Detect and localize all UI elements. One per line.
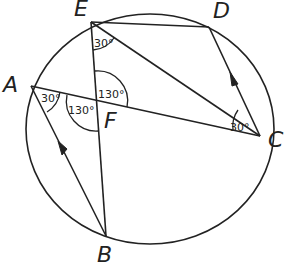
point-label-B: B bbox=[97, 242, 112, 267]
segment-AC bbox=[31, 86, 260, 136]
angle-label-A: 30° bbox=[41, 92, 61, 105]
angle-label-E: 30° bbox=[94, 37, 114, 50]
angle-label-C: 30° bbox=[230, 121, 250, 134]
point-label-E: E bbox=[74, 0, 88, 21]
point-label-F: F bbox=[104, 108, 117, 133]
point-label-A: A bbox=[1, 72, 18, 97]
point-label-C: C bbox=[268, 127, 284, 152]
angle-label-EFC: 130° bbox=[98, 88, 125, 101]
arrow-icon-DC bbox=[230, 72, 238, 86]
arrow-icon-AB bbox=[58, 141, 67, 155]
geometry-diagram: 30° 30° 30° 130° 130° E D A F C B bbox=[0, 0, 288, 268]
point-label-D: D bbox=[213, 0, 230, 23]
segment-ED bbox=[91, 22, 209, 27]
angle-label-AFB: 130° bbox=[68, 104, 95, 117]
